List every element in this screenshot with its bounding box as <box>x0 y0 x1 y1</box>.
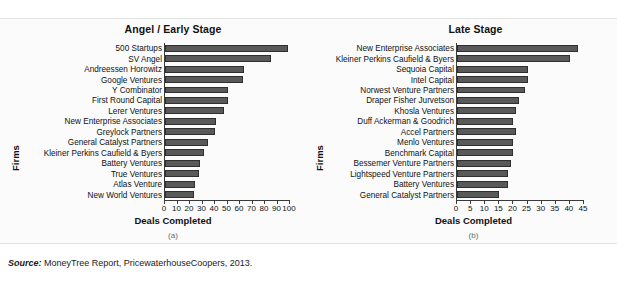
category-label: Kleiner Perkins Caufield & Byers <box>44 148 162 157</box>
x-tick-label: 5 <box>468 204 472 213</box>
chart-title-a: Angel / Early Stage <box>2 23 308 35</box>
bar <box>457 139 513 146</box>
bar-row: Accel Partners <box>457 127 584 137</box>
bar <box>165 128 215 135</box>
bar <box>165 149 204 156</box>
bar-row: Menlo Ventures <box>457 137 584 147</box>
x-tick-label: 70 <box>247 204 256 213</box>
bar <box>165 87 228 94</box>
bar <box>457 149 513 156</box>
x-tick-label: 35 <box>550 204 559 213</box>
bar-row: First Round Capital <box>165 95 290 105</box>
bar-row: True Ventures <box>165 168 290 178</box>
bar-row: Lightspeed Venture Partners <box>457 168 584 178</box>
bar-row: New Enterprise Associates <box>457 43 584 53</box>
bar <box>165 118 216 125</box>
bar <box>165 191 194 198</box>
source-note: Source: MoneyTree Report, Pricewaterhous… <box>8 258 252 268</box>
bar-row: Battery Ventures <box>165 158 290 168</box>
bar-row: Benchmark Capital <box>457 148 584 158</box>
bar-row: SV Angel <box>165 53 290 63</box>
bar <box>165 97 228 104</box>
x-tick-label: 10 <box>480 204 489 213</box>
panel-caption-a: (a) <box>2 231 308 240</box>
bar-row: Battery Ventures <box>457 179 584 189</box>
category-label: Menlo Ventures <box>397 138 454 147</box>
category-label: Y Combinator <box>112 86 162 95</box>
category-label: 500 Startups <box>116 44 162 53</box>
bar <box>457 160 511 167</box>
category-label: Accel Partners <box>401 127 454 136</box>
bar-row: Lerer Ventures <box>165 106 290 116</box>
bar <box>165 55 271 62</box>
bar-row: Kleiner Perkins Caufield & Byers <box>165 148 290 158</box>
bar <box>457 76 528 83</box>
source-text: MoneyTree Report, PricewaterhouseCoopers… <box>42 258 253 268</box>
bar-row: General Catalyst Partners <box>165 137 290 147</box>
bar-row: Atlas Venture <box>165 179 290 189</box>
category-label: New Enterprise Associates <box>65 117 162 126</box>
plot-area-a: 500 StartupsSV AngelAndreessen HorowitzG… <box>164 43 290 201</box>
category-label: Lightspeed Venture Partners <box>350 169 454 178</box>
category-label: Bessemer Venture Partners <box>353 159 454 168</box>
chart-panel-late-stage: Late Stage Firms New Enterprise Associat… <box>310 19 615 243</box>
chart-panels-container: Angel / Early Stage Firms 500 StartupsSV… <box>0 18 617 244</box>
bar <box>457 170 508 177</box>
bar <box>165 76 243 83</box>
bar <box>457 181 508 188</box>
panel-caption-b: (b) <box>310 231 615 240</box>
bar <box>165 139 208 146</box>
category-label: Lerer Ventures <box>108 106 162 115</box>
bar-row: New Enterprise Associates <box>165 116 290 126</box>
category-label: Greylock Partners <box>96 127 162 136</box>
bar-row: Intel Capital <box>457 74 584 84</box>
x-tick-label: 40 <box>210 204 219 213</box>
category-label: First Round Capital <box>92 96 162 105</box>
category-label: Duff Ackerman & Goodrich <box>357 117 454 126</box>
category-label: Andreessen Horowitz <box>84 65 162 74</box>
bar-row: Bessemer Venture Partners <box>457 158 584 168</box>
bar-row: Google Ventures <box>165 74 290 84</box>
y-axis-title-b: Firms <box>314 145 325 171</box>
bar-row: Duff Ackerman & Goodrich <box>457 116 584 126</box>
plot-area-b: New Enterprise AssociatesKleiner Perkins… <box>456 43 584 201</box>
x-tick-label: 0 <box>454 204 458 213</box>
chart-title-b: Late Stage <box>310 23 615 35</box>
bar-row: Draper Fisher Jurvetson <box>457 95 584 105</box>
x-tick-label: 40 <box>564 204 573 213</box>
category-label: Google Ventures <box>101 75 162 84</box>
category-label: Benchmark Capital <box>385 148 454 157</box>
category-label: New Enterprise Associates <box>357 44 454 53</box>
x-tick-label: 30 <box>197 204 206 213</box>
bar <box>457 118 513 125</box>
x-axis-title-b: Deals Completed <box>310 215 615 226</box>
bar-row: Kleiner Perkins Caufield & Byers <box>457 53 584 63</box>
x-tick-label: 25 <box>522 204 531 213</box>
bar <box>457 107 516 114</box>
bar <box>457 97 519 104</box>
bar-row: Greylock Partners <box>165 127 290 137</box>
bar-row: General Catalyst Partners <box>457 189 584 199</box>
x-tick-label: 15 <box>494 204 503 213</box>
category-label: New World Ventures <box>88 190 162 199</box>
bar-row: Khosla Ventures <box>457 106 584 116</box>
category-label: Norwest Venture Partners <box>360 86 454 95</box>
bar-row: 500 Startups <box>165 43 290 53</box>
bar-series-b: New Enterprise AssociatesKleiner Perkins… <box>457 43 584 201</box>
category-label: Draper Fisher Jurvetson <box>366 96 454 105</box>
category-label: General Catalyst Partners <box>360 190 454 199</box>
bar <box>165 181 195 188</box>
category-label: SV Angel <box>128 54 162 63</box>
category-label: Battery Ventures <box>393 180 454 189</box>
category-label: True Ventures <box>111 169 162 178</box>
x-tick-label: 60 <box>235 204 244 213</box>
bar <box>457 87 525 94</box>
category-label: Battery Ventures <box>101 159 162 168</box>
bar <box>165 107 224 114</box>
category-label: Sequoia Capital <box>396 65 454 74</box>
category-label: General Catalyst Partners <box>68 138 162 147</box>
y-axis-title-a: Firms <box>10 145 21 171</box>
bar <box>457 66 528 73</box>
bar-row: Y Combinator <box>165 85 290 95</box>
bar <box>457 45 578 52</box>
